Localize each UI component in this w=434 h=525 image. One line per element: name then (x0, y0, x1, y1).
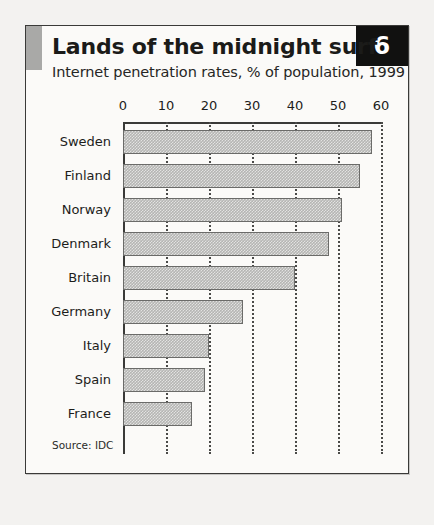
bar-row: Norway (26, 198, 410, 222)
bar (123, 232, 329, 256)
x-tick-label: 0 (119, 98, 127, 113)
category-label: Norway (62, 198, 111, 222)
category-label: Germany (51, 300, 111, 324)
bar (123, 130, 372, 154)
x-axis-tick-labels: 0102030405060 (26, 98, 410, 120)
category-label: France (68, 402, 111, 426)
bar (123, 334, 209, 358)
plot-area: 0102030405060 SwedenFinlandNorwayDenmark… (26, 98, 410, 438)
bar-row: Germany (26, 300, 410, 324)
category-label: Spain (75, 368, 111, 392)
x-tick-label: 20 (201, 98, 218, 113)
bar-row: Spain (26, 368, 410, 392)
bar-row: Finland (26, 164, 410, 188)
page-background: 6 Lands of the midnight surf Internet pe… (0, 0, 434, 525)
bar (123, 368, 205, 392)
bar-row: Denmark (26, 232, 410, 256)
bar (123, 300, 243, 324)
category-label: Italy (83, 334, 111, 358)
chart-title: Lands of the midnight surf (52, 34, 377, 59)
chart-panel: 6 Lands of the midnight surf Internet pe… (25, 25, 409, 474)
category-label: Britain (68, 266, 111, 290)
bar-row: France (26, 402, 410, 426)
category-label: Denmark (51, 232, 111, 256)
x-tick-label: 60 (373, 98, 390, 113)
category-label: Finland (65, 164, 111, 188)
bar (123, 164, 360, 188)
bar (123, 198, 342, 222)
bar-row: Sweden (26, 130, 410, 154)
bar (123, 402, 192, 426)
chart-header: 6 Lands of the midnight surf Internet pe… (26, 26, 408, 98)
x-tick-label: 40 (287, 98, 304, 113)
bar-row: Italy (26, 334, 410, 358)
x-tick-label: 50 (330, 98, 347, 113)
source-note: Source: IDC (52, 439, 113, 451)
bar (123, 266, 295, 290)
bar-row: Britain (26, 266, 410, 290)
x-tick-label: 10 (158, 98, 175, 113)
x-tick-label: 30 (244, 98, 261, 113)
chart-subtitle: Internet penetration rates, % of populat… (52, 64, 405, 80)
category-label: Sweden (60, 130, 111, 154)
